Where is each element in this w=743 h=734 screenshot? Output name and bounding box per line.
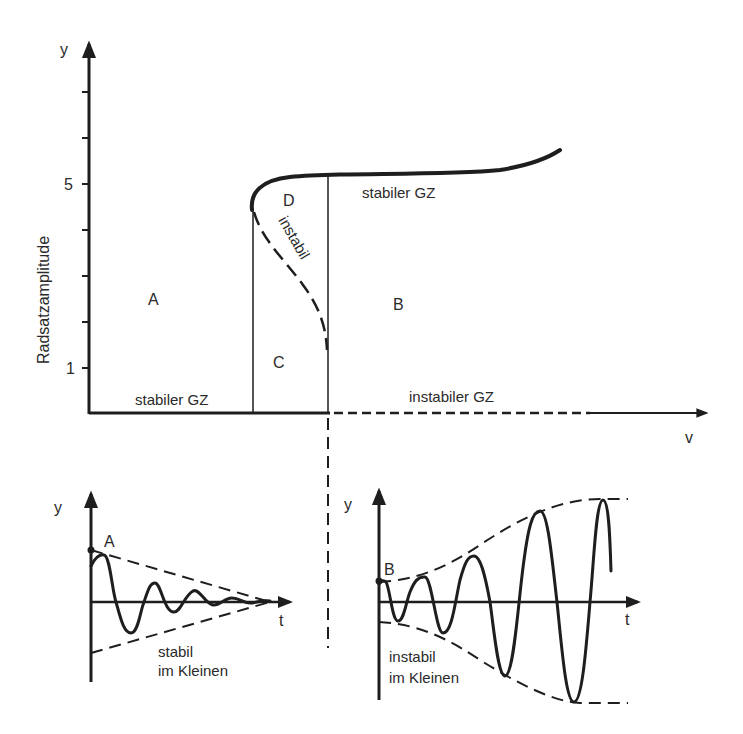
region-d-label: D [283,192,295,209]
y-axis-symbol: y [60,41,68,58]
unstable-oscillation-plot: y t B instabil im Kleinen [344,491,638,703]
x-axis-label: v [685,429,693,446]
sub-left-caption-line1: stabil [158,643,193,660]
sub-right-point-b: B [384,561,395,578]
stable-gz-upper-label: stabiler GZ [362,184,435,201]
sub-left-point-a: A [104,533,115,550]
sub-right-caption-line1: instabil [389,648,436,665]
sub-left-caption-line2: im Kleinen [158,662,228,679]
y-tick-label-5: 5 [64,176,73,193]
unstable-branch-label: instabil [275,213,313,262]
sub-left-y-label: y [54,499,62,516]
sub-right-t-label: t [625,611,630,628]
region-a-label: A [148,291,159,308]
stable-upper-branch [252,150,560,210]
y-tick-label-1: 1 [66,360,75,377]
sub-right-caption-line2: im Kleinen [389,669,459,686]
main-plot: y 5 1 Radsatzamplitude v A B C [35,41,706,648]
sub-left-t-label: t [279,612,284,629]
region-c-label: C [273,354,285,371]
sub-right-y-label: y [344,496,352,513]
unstable-gz-label: instabiler GZ [409,388,494,405]
y-axis-label: Radsatzamplitude [35,236,52,364]
bifurcation-diagram: y 5 1 Radsatzamplitude v A B C [0,0,743,734]
stable-gz-lower-label: stabiler GZ [135,391,208,408]
region-b-label: B [393,296,404,313]
sub-right-upper-envelope [379,499,628,582]
sub-left-upper-envelope [91,550,270,602]
stable-oscillation-plot: y t A stabil im Kleinen [54,494,290,682]
